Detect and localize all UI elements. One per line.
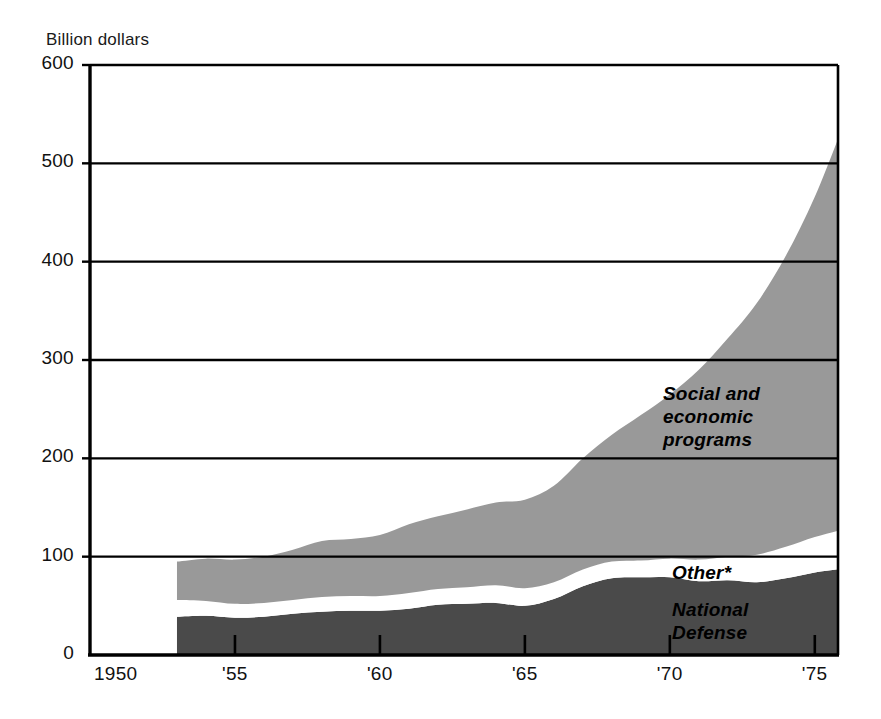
x-axis-tick-label: '70 bbox=[657, 663, 683, 685]
series-label-national-defense: National Defense bbox=[672, 598, 749, 644]
x-axis-tick-label: '75 bbox=[802, 663, 828, 685]
x-axis-tick-label: '65 bbox=[512, 663, 538, 685]
y-axis-tick-label: 300 bbox=[14, 347, 74, 369]
y-axis-tick-label: 200 bbox=[14, 445, 74, 467]
y-axis-tick-label: 0 bbox=[14, 642, 74, 664]
x-axis-tick-label: '55 bbox=[222, 663, 248, 685]
x-axis-tick-label: '60 bbox=[367, 663, 393, 685]
y-axis-tick-label: 400 bbox=[14, 249, 74, 271]
y-axis-tick-label: 500 bbox=[14, 150, 74, 172]
y-axis-tick-label: 600 bbox=[14, 52, 74, 74]
series-label-other: Other* bbox=[672, 561, 731, 584]
area-chart: Billion dollars 6005004003002001000 1950… bbox=[0, 0, 881, 719]
y-axis-tick-label: 100 bbox=[14, 544, 74, 566]
x-axis-tick-label: 1950 bbox=[94, 663, 137, 685]
series-label-social-and-economic-programs: Social and economic programs bbox=[663, 382, 760, 451]
